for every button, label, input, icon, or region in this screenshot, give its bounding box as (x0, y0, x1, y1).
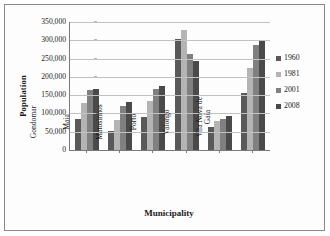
legend-item: 2001 (276, 82, 324, 98)
y-axis-tick-label: 350,000 (28, 18, 66, 26)
x-axis-tick-labels: GondomarMaiaMatosinhosPortoValongoVila N… (69, 150, 269, 210)
x-axis-tick-mark (86, 150, 87, 153)
x-axis-tick-mark (152, 150, 153, 153)
legend-item: 1981 (276, 66, 324, 82)
x-axis-tick-label-text: Matosinhos (96, 94, 104, 150)
x-axis-tick-mark (219, 150, 220, 153)
gridline (70, 22, 270, 23)
legend-swatch (276, 56, 281, 61)
legend-item: 2008 (276, 98, 324, 114)
x-axis-tick-label-text: Maia (63, 94, 71, 150)
legend-label: 2001 (284, 86, 300, 94)
legend-label: 1981 (284, 70, 300, 78)
legend-swatch (276, 104, 281, 109)
chart-figure: Population 050,000100,000150,000200,0002… (0, 0, 330, 236)
gridline (70, 40, 270, 41)
y-axis-title-text: Population (18, 75, 28, 117)
x-axis-tick-label-text: Vila Nova de Gaia (196, 89, 212, 145)
x-axis-tick-label-text: Porto (130, 94, 138, 150)
legend-swatch (276, 72, 281, 77)
x-axis-title: Municipality (69, 208, 269, 218)
x-axis-tick-label-text: Valongo (163, 94, 171, 150)
bar (226, 116, 232, 150)
x-axis-tick-mark (186, 150, 187, 153)
legend-item: 1960 (276, 50, 324, 66)
x-axis-tick-label-text: Gondomar (30, 94, 38, 150)
y-axis-tick-label: 300,000 (28, 36, 66, 44)
x-axis-tick-mark (252, 150, 253, 153)
chart-legend: 1960198120012008 (276, 50, 324, 114)
legend-label: 2008 (284, 102, 300, 110)
y-axis-tick-label: 250,000 (28, 55, 66, 63)
y-axis-tick-label: 200,000 (28, 73, 66, 81)
gridline (70, 77, 270, 78)
x-axis-tick-mark (119, 150, 120, 153)
legend-label: 1960 (284, 54, 300, 62)
gridline (70, 59, 270, 60)
legend-swatch (276, 88, 281, 93)
